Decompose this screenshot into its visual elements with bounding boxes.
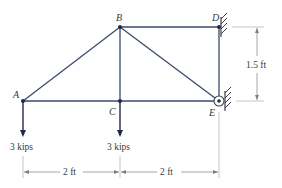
node-label-c: C bbox=[109, 106, 116, 117]
joint-e bbox=[217, 99, 221, 103]
load-label-a: 3 kips bbox=[10, 142, 33, 152]
node-label-b: B bbox=[116, 12, 122, 23]
arrow-left-icon bbox=[121, 170, 126, 174]
dimension-label-ac: 2 ft bbox=[63, 167, 76, 177]
load-label-c: 3 kips bbox=[107, 142, 130, 152]
arrow-right-icon bbox=[213, 170, 218, 174]
truss-members bbox=[23, 27, 219, 101]
dimension-label-de: 1.5 ft bbox=[246, 60, 266, 70]
member-ab bbox=[23, 27, 120, 101]
node-label-e: E bbox=[208, 107, 215, 118]
arrow-left-icon bbox=[24, 170, 29, 174]
joint-b bbox=[118, 25, 122, 29]
joint-d bbox=[217, 25, 221, 29]
truss-diagram: A B C D E 3 kips 3 kips 2 ft 2 ft bbox=[0, 0, 282, 188]
wall-support-d bbox=[221, 13, 227, 37]
arrow-down-icon bbox=[117, 130, 123, 137]
arrow-down-icon bbox=[20, 130, 26, 137]
node-label-a: A bbox=[12, 89, 20, 100]
joints bbox=[21, 25, 221, 103]
arrow-down-icon bbox=[255, 95, 259, 100]
pin-support-e bbox=[214, 87, 231, 111]
load-a bbox=[20, 101, 26, 137]
dimension-label-ce: 2 ft bbox=[160, 167, 173, 177]
member-be bbox=[120, 27, 219, 101]
load-c bbox=[117, 101, 123, 137]
node-label-d: D bbox=[211, 12, 220, 23]
arrow-right-icon bbox=[114, 170, 119, 174]
arrow-up-icon bbox=[255, 28, 259, 33]
